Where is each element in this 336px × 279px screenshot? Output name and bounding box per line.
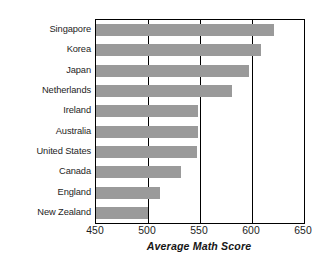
bar [96,126,198,138]
bar [96,207,148,219]
bar [96,24,274,36]
bar [96,187,160,199]
x-axis-title: Average Math Score [95,240,303,252]
bar [96,44,261,56]
plot-area [95,19,305,224]
category-axis: SingaporeKoreaJapanNetherlandsIrelandAus… [0,19,91,222]
category-label: New Zealand [0,207,91,217]
category-label: England [0,187,91,197]
value-axis: 450500550600650 [95,224,303,240]
x-tick-label: 500 [138,224,155,237]
x-tick-label: 650 [294,224,311,237]
category-label: United States [0,146,91,156]
category-label: Singapore [0,24,91,34]
category-label: Korea [0,44,91,54]
plot-inner [96,20,304,223]
category-label: Netherlands [0,85,91,95]
category-label: Australia [0,126,91,136]
bar [96,105,198,117]
bar [96,166,181,178]
x-tick-label: 450 [86,224,103,237]
bar [96,85,232,97]
bar-chart: SingaporeKoreaJapanNetherlandsIrelandAus… [0,0,336,279]
bar [96,146,197,158]
x-tick-label: 550 [190,224,207,237]
category-label: Canada [0,166,91,176]
category-label: Japan [0,65,91,75]
x-tick-label: 600 [242,224,259,237]
bar [96,65,249,77]
category-label: Ireland [0,105,91,115]
